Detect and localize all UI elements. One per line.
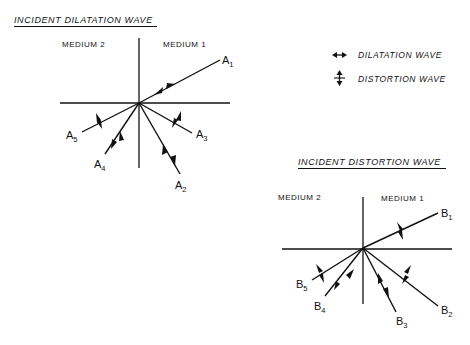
dilatation-arrow-icon — [166, 83, 175, 89]
distortion-arrow-icon — [316, 264, 323, 273]
diagram-incident-dilatation: INCIDENT DILATATION WAVE MEDIUM 2 MEDIUM… — [14, 15, 234, 194]
diagram-a-medium-1: MEDIUM 1 — [163, 40, 206, 49]
label-b1: B1 — [441, 207, 453, 222]
ray-a2 — [139, 103, 180, 174]
diagram-a-medium-2: MEDIUM 2 — [62, 40, 105, 49]
ray-a4 — [105, 103, 139, 154]
diagram-b-medium-1: MEDIUM 1 — [381, 194, 424, 203]
ray-a1 — [139, 60, 220, 103]
distortion-arrow-icon — [404, 265, 411, 274]
dilatation-arrow-icon — [334, 281, 340, 290]
dilatation-arrow-icon — [378, 273, 383, 284]
label-a4: A4 — [94, 158, 106, 173]
diagram-a-title: INCIDENT DILATATION WAVE — [14, 15, 153, 25]
label-a1: A1 — [222, 54, 234, 69]
dilatation-arrow-icon — [346, 269, 354, 279]
diagram-b-title: INCIDENT DISTORTION WAVE — [298, 157, 441, 167]
label-b3: B3 — [396, 315, 408, 330]
dilatation-arrow-icon — [154, 87, 163, 95]
legend: DILATATION WAVE DISTORTION WAVE — [332, 50, 446, 86]
ray-b3 — [363, 248, 396, 312]
legend-dilatation-icon — [332, 52, 347, 58]
dilatation-arrow-icon — [111, 139, 117, 149]
legend-distortion-label: DISTORTION WAVE — [358, 74, 446, 84]
ray-b2 — [363, 248, 438, 306]
legend-distortion-icon — [334, 70, 345, 86]
dilatation-arrow-icon — [383, 287, 389, 298]
label-b5: B5 — [296, 278, 308, 293]
label-a3: A3 — [196, 128, 208, 143]
label-b2: B2 — [441, 304, 453, 319]
wave-reflection-refraction-diagram: INCIDENT DILATATION WAVE MEDIUM 2 MEDIUM… — [0, 0, 470, 345]
diagram-incident-distortion: INCIDENT DISTORTION WAVE MEDIUM 2 MEDIUM… — [278, 157, 453, 330]
ray-b4 — [325, 248, 363, 296]
label-b4: B4 — [314, 300, 326, 315]
dilatation-arrow-icon — [162, 144, 168, 155]
ray-a5 — [82, 103, 139, 132]
diagram-b-medium-2: MEDIUM 2 — [278, 193, 321, 202]
ray-b5 — [312, 248, 363, 283]
legend-dilatation-label: DILATATION WAVE — [358, 50, 442, 60]
label-a2: A2 — [175, 179, 187, 194]
ray-b1 — [363, 213, 438, 248]
label-a5: A5 — [66, 129, 78, 144]
dilatation-arrow-icon — [170, 155, 176, 166]
